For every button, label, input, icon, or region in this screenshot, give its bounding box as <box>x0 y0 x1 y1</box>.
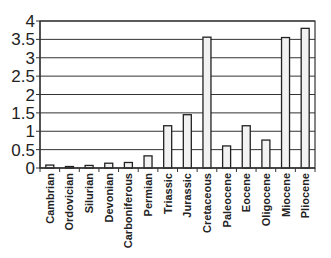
bar-chart: 00.511.522.533.54 CambrianOrdovicianSilu… <box>0 0 331 258</box>
y-axis: 00.511.522.533.54 <box>11 12 40 178</box>
x-tick-label: Cambrian <box>44 173 56 224</box>
bar-jurassic <box>183 115 191 168</box>
x-tick-label: Eocene <box>240 173 252 212</box>
x-tick-label: Pliocene <box>299 173 311 218</box>
x-tick-label: Cretaceous <box>201 173 213 233</box>
x-tick-label: Ordovician <box>63 173 75 231</box>
bar-paleocene <box>223 146 231 168</box>
x-tick-label: Triassic <box>162 173 174 214</box>
bar-devonian <box>105 163 113 168</box>
x-tick-label: Paleocene <box>221 173 233 227</box>
bar-oligocene <box>262 140 270 168</box>
x-tick-label: Jurassic <box>181 173 193 218</box>
bars <box>46 28 309 168</box>
y-tick-label: 0.5 <box>11 141 35 160</box>
y-tick-label: 0 <box>26 159 35 178</box>
y-tick-label: 2.5 <box>11 67 35 86</box>
bar-triassic <box>164 126 172 168</box>
y-tick-label: 1 <box>26 122 35 141</box>
bar-carboniferous <box>124 162 132 168</box>
y-tick-label: 3 <box>26 49 35 68</box>
x-tick-label: Oligocene <box>260 173 272 226</box>
bar-eocene <box>242 126 250 168</box>
bar-permian <box>144 156 152 168</box>
y-tick-label: 1.5 <box>11 104 35 123</box>
x-tick-label: Permian <box>142 173 154 217</box>
y-tick-label: 2 <box>26 86 35 105</box>
bar-cretaceous <box>203 37 211 168</box>
bar-miocene <box>282 38 290 168</box>
x-tick-label: Miocene <box>280 173 292 217</box>
x-tick-label: Devonian <box>103 173 115 223</box>
y-tick-label: 4 <box>26 12 35 31</box>
bar-pliocene <box>301 28 309 168</box>
gridlines <box>40 21 315 168</box>
x-axis: CambrianOrdovicianSilurianDevonianCarbon… <box>40 168 315 248</box>
x-tick-label: Silurian <box>83 173 95 214</box>
y-tick-label: 3.5 <box>11 30 35 49</box>
x-tick-label: Carboniferous <box>122 173 134 248</box>
